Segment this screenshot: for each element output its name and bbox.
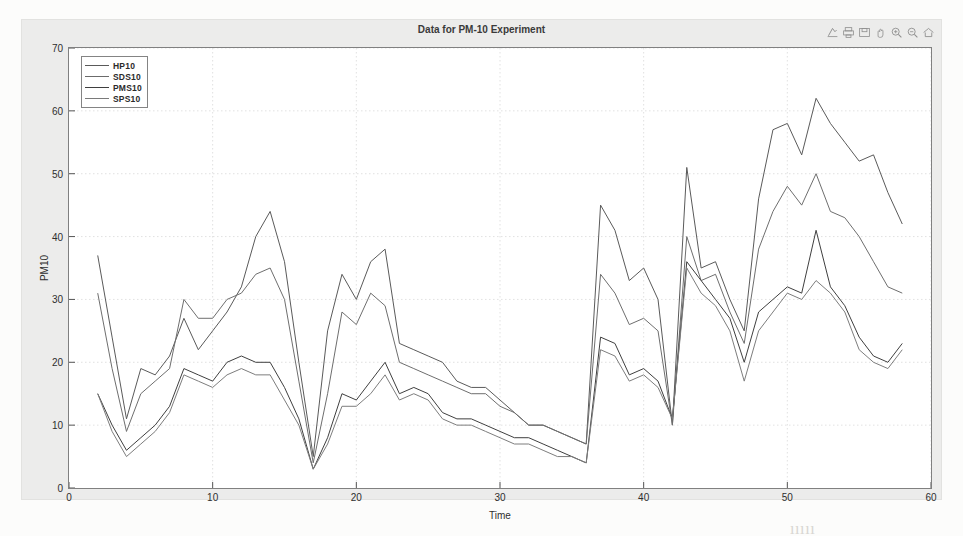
save-icon[interactable] (858, 26, 871, 39)
line-chart-canvas (69, 48, 931, 488)
zoom-in-icon[interactable] (890, 26, 903, 39)
y-tick-label: 10 (52, 420, 63, 431)
x-tick-label: 50 (782, 492, 793, 503)
pan-hand-icon[interactable] (874, 26, 887, 39)
x-tick-label: 30 (494, 492, 505, 503)
y-tick-label: 60 (52, 105, 63, 116)
plot-axes: PM10 Time 010203040506070 0102030405060 … (68, 47, 932, 489)
x-tick-label: 10 (207, 492, 218, 503)
y-tick-label: 30 (52, 294, 63, 305)
legend-label: PMS10 (113, 83, 142, 93)
y-tick-label: 70 (52, 43, 63, 54)
print-icon[interactable] (842, 26, 855, 39)
chart-legend: HP10SDS10PMS10SPS10 (81, 56, 148, 108)
legend-item-sps10: SPS10 (85, 93, 142, 104)
y-tick-label: 0 (57, 483, 63, 494)
x-tick-label: 60 (925, 492, 936, 503)
legend-label: SDS10 (113, 72, 141, 82)
legend-swatch-icon (85, 76, 109, 77)
y-tick-label: 50 (52, 168, 63, 179)
x-axis-label: Time (69, 510, 931, 521)
legend-item-sds10: SDS10 (85, 71, 142, 82)
home-icon[interactable] (922, 26, 935, 39)
y-tick-label: 20 (52, 357, 63, 368)
legend-item-pms10: PMS10 (85, 82, 142, 93)
matlab-figure-window: Data for PM-10 Experiment PM10 Time 0102… (22, 20, 941, 499)
x-tick-label: 40 (638, 492, 649, 503)
legend-item-hp10: HP10 (85, 60, 142, 71)
y-axis-label: PM10 (39, 255, 50, 281)
print-preview-icon[interactable] (826, 26, 839, 39)
zoom-out-icon[interactable] (906, 26, 919, 39)
legend-swatch-icon (85, 65, 109, 66)
legend-label: SPS10 (113, 94, 140, 104)
x-tick-label: 0 (66, 492, 72, 503)
x-tick-label: 20 (351, 492, 362, 503)
legend-swatch-icon (85, 87, 109, 88)
y-tick-label: 40 (52, 231, 63, 242)
legend-swatch-icon (85, 98, 109, 99)
figure-title: Data for PM-10 Experiment (22, 24, 941, 35)
legend-label: HP10 (113, 61, 135, 71)
figure-toolbar[interactable] (826, 26, 935, 39)
